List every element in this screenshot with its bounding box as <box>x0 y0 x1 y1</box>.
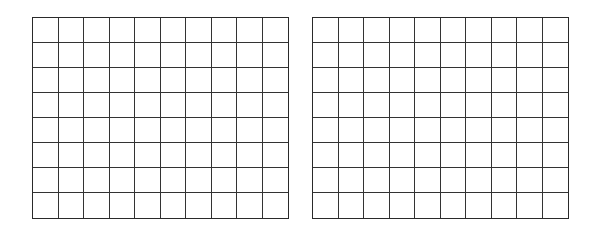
grid-cell <box>237 93 263 118</box>
grid-cell <box>263 18 289 43</box>
grid-cell <box>161 143 187 168</box>
grid-cell <box>84 193 110 218</box>
grid-cell <box>186 168 212 193</box>
grid-cell <box>364 143 390 168</box>
grid-cell <box>186 68 212 93</box>
grid-cell <box>466 118 492 143</box>
right-grid <box>312 17 569 219</box>
grid-cell <box>212 68 238 93</box>
grid-cell <box>263 168 289 193</box>
grid-cell <box>212 43 238 68</box>
grid-cell <box>212 143 238 168</box>
grid-cell <box>135 143 161 168</box>
grid-cell <box>543 143 569 168</box>
grid-cell <box>415 168 441 193</box>
grid-cell <box>441 68 467 93</box>
grid-cell <box>59 193 85 218</box>
grid-cell <box>237 118 263 143</box>
grid-cell <box>466 143 492 168</box>
grid-cell <box>466 43 492 68</box>
grid-cell <box>186 93 212 118</box>
grid-cell <box>186 193 212 218</box>
grid-cell <box>543 93 569 118</box>
grid-cell <box>543 118 569 143</box>
grid-cell <box>212 93 238 118</box>
grid-cell <box>135 93 161 118</box>
grid-cell <box>33 168 59 193</box>
grid-cell <box>390 193 416 218</box>
grid-cell <box>492 18 518 43</box>
grid-cell <box>339 168 365 193</box>
grid-cell <box>33 193 59 218</box>
grid-cell <box>135 193 161 218</box>
grid-cell <box>313 18 339 43</box>
grid-cell <box>237 18 263 43</box>
grid-cell <box>364 168 390 193</box>
grid-cell <box>390 143 416 168</box>
grid-cell <box>33 143 59 168</box>
grid-cell <box>161 118 187 143</box>
grid-cell <box>364 43 390 68</box>
grid-cell <box>441 118 467 143</box>
grid-cell <box>517 168 543 193</box>
grid-cell <box>492 143 518 168</box>
grid-cell <box>263 68 289 93</box>
grid-cell <box>84 168 110 193</box>
grid-cell <box>33 43 59 68</box>
grid-cell <box>212 18 238 43</box>
grid-cell <box>33 118 59 143</box>
grid-cell <box>110 93 136 118</box>
grid-cell <box>263 43 289 68</box>
grid-cell <box>59 18 85 43</box>
grid-cell <box>441 143 467 168</box>
grid-cell <box>59 168 85 193</box>
grid-cell <box>441 43 467 68</box>
grid-cell <box>543 43 569 68</box>
grid-cell <box>339 118 365 143</box>
grid-cell <box>390 68 416 93</box>
grid-cell <box>517 68 543 93</box>
grid-cell <box>390 93 416 118</box>
grid-cell <box>492 118 518 143</box>
grid-cell <box>441 93 467 118</box>
grid-cell <box>466 93 492 118</box>
grid-cell <box>313 43 339 68</box>
grid-cell <box>415 143 441 168</box>
grid-cell <box>466 168 492 193</box>
grid-cell <box>110 118 136 143</box>
grid-cell <box>110 68 136 93</box>
grid-cell <box>339 43 365 68</box>
grid-cell <box>364 93 390 118</box>
grid-cell <box>441 168 467 193</box>
grid-cell <box>237 143 263 168</box>
grid-cell <box>110 18 136 43</box>
grid-cell <box>517 18 543 43</box>
grid-cell <box>237 168 263 193</box>
grid-cell <box>135 18 161 43</box>
grid-cell <box>59 68 85 93</box>
grid-cell <box>517 118 543 143</box>
grid-cell <box>492 93 518 118</box>
grid-cell <box>415 118 441 143</box>
grid-cell <box>517 43 543 68</box>
left-grid <box>32 17 289 219</box>
grid-cell <box>339 193 365 218</box>
grid-cell <box>161 18 187 43</box>
grid-cell <box>33 18 59 43</box>
grid-cell <box>110 168 136 193</box>
grid-cell <box>33 68 59 93</box>
grid-cell <box>186 43 212 68</box>
grid-cell <box>161 193 187 218</box>
grid-cell <box>135 43 161 68</box>
grid-cell <box>364 18 390 43</box>
grid-cell <box>364 118 390 143</box>
grid-cell <box>415 93 441 118</box>
grid-cell <box>339 143 365 168</box>
grid-cell <box>543 18 569 43</box>
grid-cell <box>186 143 212 168</box>
grid-cell <box>466 18 492 43</box>
grid-cell <box>84 18 110 43</box>
grid-cell <box>390 168 416 193</box>
grid-cell <box>212 193 238 218</box>
grid-cell <box>263 93 289 118</box>
